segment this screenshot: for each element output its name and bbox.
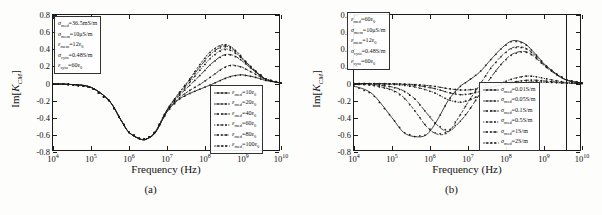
data-point-marker [229, 76, 231, 78]
data-point-marker [556, 82, 558, 84]
data-point-marker [465, 114, 467, 116]
data-point-marker [551, 70, 553, 72]
data-point-marker [546, 78, 548, 80]
parameter-row: σmem=10μS/m [58, 30, 97, 41]
data-point-marker [454, 89, 456, 91]
data-point-marker [189, 90, 191, 92]
legend-item[interactable]: σmed=2S/m [483, 138, 536, 149]
data-point-marker [194, 71, 196, 73]
data-point-marker [530, 79, 532, 81]
data-point-marker [179, 91, 181, 93]
data-point-marker [399, 127, 401, 129]
y-axis-tick-mark [275, 135, 279, 136]
data-point-marker [495, 53, 497, 55]
data-point-marker [490, 59, 492, 61]
y-axis-tick-mark [576, 84, 580, 85]
panel-a-y-axis-label: Im[KCM] [9, 70, 24, 107]
data-point-marker [108, 99, 110, 101]
data-point-marker [123, 124, 125, 126]
data-point-marker [209, 52, 211, 54]
data-point-marker [128, 131, 130, 133]
data-point-marker [219, 50, 221, 52]
data-point-marker [174, 102, 176, 104]
legend-label: εmed=10ε0 [232, 89, 256, 98]
y-axis-tick-mark [576, 32, 580, 33]
legend-item[interactable]: εmed=10ε0 [214, 88, 259, 99]
data-point-marker [240, 59, 242, 61]
data-point-marker [368, 92, 370, 94]
parameter-row: εcyto=60ε0 [351, 57, 386, 68]
data-point-marker [409, 83, 411, 85]
y-axis-tick-label: -0.6 [37, 130, 50, 140]
legend-item[interactable]: εmed=40ε0 [214, 109, 259, 120]
data-point-marker [546, 67, 548, 69]
data-point-marker [444, 91, 446, 93]
legend-item[interactable]: σmed=0.1S/m [483, 106, 536, 117]
legend-line-swatch [214, 90, 230, 96]
data-point-marker [449, 97, 451, 99]
legend-label: εmed=40ε0 [232, 110, 256, 119]
data-point-marker [485, 75, 487, 77]
data-point-marker [209, 54, 211, 56]
data-point-marker [510, 79, 512, 81]
data-point-marker [444, 105, 446, 107]
data-point-marker [495, 70, 497, 72]
x-axis-tick-mark [506, 15, 507, 19]
data-point-marker [219, 56, 221, 58]
legend-line-swatch [214, 101, 230, 107]
y-axis-tick-mark [354, 135, 358, 136]
x-axis-tick-mark [392, 146, 393, 150]
data-point-marker [93, 88, 95, 90]
data-point-marker [394, 120, 396, 122]
panel-b-parameter-box: εmed=60ε0σmem=10μS/mεmem=12ε0σcyto=0.48S… [347, 12, 390, 70]
data-point-marker [159, 123, 161, 125]
legend-item[interactable]: εmed=80ε0 [214, 130, 259, 141]
y-axis-tick-label: 0.6 [39, 27, 50, 37]
data-point-marker [214, 50, 216, 52]
data-point-marker [495, 62, 497, 64]
legend-label: σmed=0.1S/m [501, 107, 532, 116]
legend-item[interactable]: εmed=100ε0 [214, 141, 259, 152]
data-point-marker [536, 76, 538, 78]
data-point-marker [399, 83, 401, 85]
data-point-marker [434, 132, 436, 134]
data-point-marker [199, 64, 201, 66]
data-point-marker [429, 116, 431, 118]
data-point-marker [525, 48, 527, 50]
data-point-marker [454, 121, 456, 123]
data-point-marker [404, 98, 406, 100]
legend-label: εmed=20ε0 [232, 99, 256, 108]
legend-item[interactable]: σmed=0.05S/m [483, 96, 536, 107]
data-point-marker [235, 65, 237, 67]
data-point-marker [373, 96, 375, 98]
legend-item[interactable]: σmed=0.01S/m [483, 85, 536, 96]
data-point-marker [490, 77, 492, 79]
x-axis-tick-mark [91, 146, 92, 150]
data-point-marker [439, 133, 441, 135]
data-point-marker [214, 54, 216, 56]
x-axis-tick-mark [281, 15, 282, 19]
data-point-marker [404, 132, 406, 134]
legend-item[interactable]: εmed=20ε0 [214, 99, 259, 110]
data-point-marker [460, 94, 462, 96]
y-axis-tick-mark [275, 118, 279, 119]
data-point-marker [429, 128, 431, 130]
data-point-marker [389, 88, 391, 90]
legend-line-swatch [483, 98, 499, 104]
data-point-marker [465, 89, 467, 91]
legend-item[interactable]: σmed=1S/m [483, 127, 536, 138]
data-point-marker [255, 77, 257, 79]
data-point-marker [414, 84, 416, 86]
x-axis-tick-mark [167, 146, 168, 150]
data-point-marker [219, 47, 221, 49]
data-point-marker [184, 95, 186, 97]
data-point-marker [378, 83, 380, 85]
data-point-marker [419, 104, 421, 106]
data-point-marker [138, 138, 140, 140]
legend-line-swatch [483, 108, 499, 114]
data-point-marker [148, 136, 150, 138]
legend-item[interactable]: εmed=60ε0 [214, 120, 259, 131]
y-axis-tick-label: -0.4 [37, 113, 50, 123]
data-point-marker [224, 46, 226, 48]
legend-item[interactable]: σmed=0.5S/m [483, 117, 536, 128]
